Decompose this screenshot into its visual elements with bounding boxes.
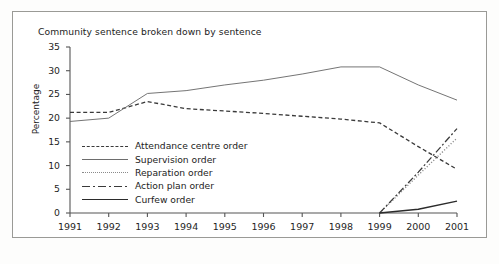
legend-item: Attendance centre order <box>82 139 248 152</box>
legend-item: Action plan order <box>82 179 248 192</box>
legend-item-label: Attendance centre order <box>135 140 248 151</box>
y-tick-label: 5 <box>38 183 60 194</box>
x-tick-label: 2001 <box>437 221 477 232</box>
y-tick-label: 0 <box>38 207 60 218</box>
y-tick-label: 15 <box>38 136 60 147</box>
chart-figure: Community sentence broken down by senten… <box>0 0 499 264</box>
chart-title: Community sentence broken down by senten… <box>38 26 262 37</box>
x-tick-label: 1995 <box>205 221 245 232</box>
legend-swatch-icon <box>82 194 128 205</box>
y-tick-label: 30 <box>38 65 60 76</box>
x-tick-label: 2000 <box>398 221 438 232</box>
legend-swatch-icon <box>82 140 128 151</box>
x-tick-label: 1994 <box>166 221 206 232</box>
y-tick-label: 10 <box>38 160 60 171</box>
y-tick-label: 20 <box>38 112 60 123</box>
x-tick-label: 1999 <box>360 221 400 232</box>
legend-item: Curfew order <box>82 193 248 206</box>
legend-swatch-icon <box>82 154 128 165</box>
legend-item-label: Supervision order <box>135 154 216 165</box>
legend-swatch-icon <box>82 167 128 178</box>
x-tick-label: 1996 <box>244 221 284 232</box>
x-tick-label: 1997 <box>282 221 322 232</box>
y-tick-label: 35 <box>38 41 60 52</box>
legend-item: Reparation order <box>82 166 248 179</box>
legend-item: Supervision order <box>82 152 248 165</box>
x-tick-label: 1993 <box>127 221 167 232</box>
legend-item-label: Curfew order <box>135 194 195 205</box>
chart-legend: Attendance centre orderSupervision order… <box>82 139 248 206</box>
x-tick-label: 1992 <box>89 221 129 232</box>
legend-swatch-icon <box>82 180 128 191</box>
x-tick-label: 1998 <box>321 221 361 232</box>
legend-item-label: Reparation order <box>135 167 213 178</box>
y-tick-label: 25 <box>38 88 60 99</box>
x-tick-label: 1991 <box>50 221 90 232</box>
legend-item-label: Action plan order <box>135 180 214 191</box>
